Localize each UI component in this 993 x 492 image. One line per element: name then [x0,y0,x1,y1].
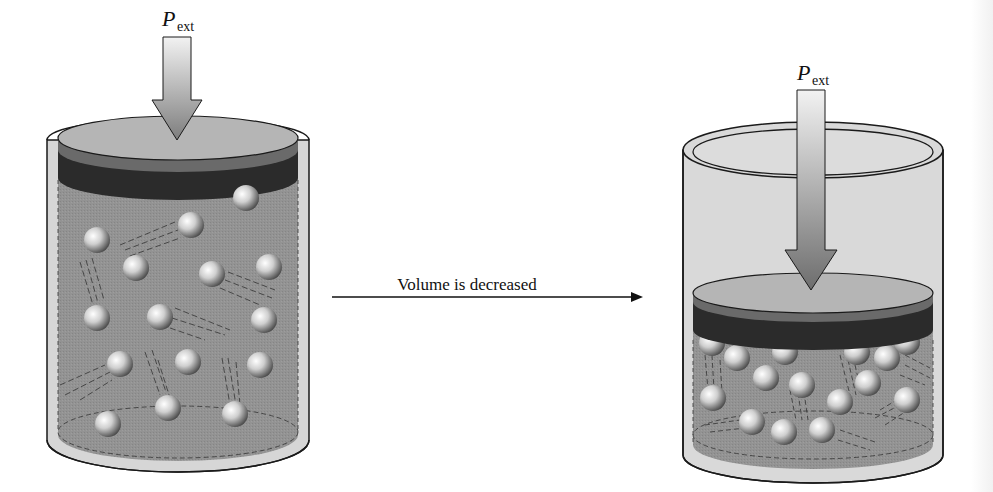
transition-label: Volume is decreased [397,275,537,294]
arrow-right-icon [631,292,643,302]
left-pressure-subscript: ext [177,19,194,34]
right-pressure-subscript: ext [812,73,829,88]
left-pressure-label: P [161,6,175,31]
right-pressure-label: P [796,60,810,85]
gas-compression-diagram: P ext Volume is decreased [0,0,993,492]
left-cylinder [47,116,309,472]
